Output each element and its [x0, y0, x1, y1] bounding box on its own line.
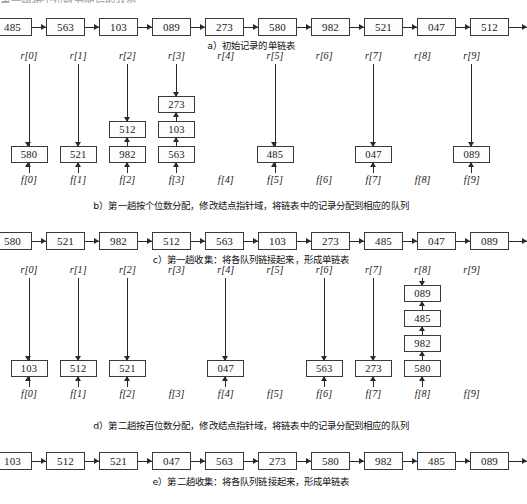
queue-stack: 512	[55, 278, 101, 387]
queue-front-pointer-line	[373, 377, 374, 387]
queue-node: 089	[404, 285, 441, 302]
chain-tail-arrow	[509, 461, 527, 462]
queue-node: 485	[404, 310, 441, 327]
queue-stack: 047	[203, 278, 249, 387]
queue-front-label: f[9]	[449, 174, 495, 186]
queue-stack: 273	[350, 278, 396, 387]
queue-front-label: f[2]	[104, 388, 150, 400]
queue-rear-pointer-line	[373, 64, 374, 146]
chain-node: 089	[470, 452, 509, 470]
queue-front-pointer-line	[275, 163, 276, 173]
queue-rear-pointer-line	[78, 278, 79, 360]
chain-link-arrow	[403, 27, 417, 28]
queue-node: 485	[257, 146, 294, 163]
bucket-column: r[2]521f[2]	[104, 264, 150, 276]
queue-front-label: f[1]	[55, 174, 101, 186]
queue-link-line	[422, 327, 423, 335]
queue-front-label: f[2]	[104, 174, 150, 186]
queue-front-pointer-line	[324, 377, 325, 387]
queue-rear-label: r[5]	[252, 50, 298, 62]
chain-link-arrow	[32, 27, 46, 28]
chain-node: 047	[417, 18, 456, 36]
queue-front-label: f[4]	[203, 388, 249, 400]
chain-link-arrow	[456, 461, 470, 462]
bucket-column: r[9]089f[9]	[449, 50, 495, 62]
queue-node: 273	[158, 96, 195, 113]
chain-link-arrow	[85, 241, 99, 242]
queue-node: 047	[355, 146, 392, 163]
bucket-column: r[2]512982f[2]	[104, 50, 150, 62]
chain-node: 580	[0, 232, 32, 250]
chain-node: 485	[0, 18, 32, 36]
chain-node: 047	[152, 452, 191, 470]
chain-row-c: 580521982512563103273485047089	[0, 228, 502, 254]
queue-rear-label: r[2]	[104, 50, 150, 62]
chain-node: 103	[0, 452, 32, 470]
chain-link-arrow	[244, 461, 258, 462]
chain-node: 273	[311, 232, 350, 250]
queue-rear-label: r[7]	[350, 50, 396, 62]
chain-link-arrow	[403, 241, 417, 242]
queue-front-pointer-line	[78, 163, 79, 173]
queue-node: 982	[404, 335, 441, 352]
queue-node: 103	[158, 121, 195, 138]
queue-stack: 103	[6, 278, 52, 387]
chain-link-arrow	[32, 241, 46, 242]
chain-link-arrow	[403, 461, 417, 462]
queue-rear-pointer-line	[373, 278, 374, 360]
chain-link-arrow	[85, 461, 99, 462]
queue-node: 982	[109, 146, 146, 163]
queue-front-pointer-line	[373, 163, 374, 173]
bucket-column: r[5]f[5]	[252, 264, 298, 276]
queue-stack: 521	[104, 278, 150, 387]
queue-front-label: f[3]	[154, 388, 200, 400]
bucket-column: r[3]f[3]	[154, 264, 200, 276]
queue-rear-label: r[6]	[301, 264, 347, 276]
queue-rear-label: r[8]	[400, 264, 446, 276]
queue-stack: 047	[350, 64, 396, 173]
chain-node: 580	[311, 452, 350, 470]
queue-stack: 521	[55, 64, 101, 173]
queue-front-label: f[7]	[350, 388, 396, 400]
queue-rear-pointer-line	[324, 278, 325, 360]
chain-node: 982	[99, 232, 138, 250]
bucket-column: r[1]521f[1]	[55, 50, 101, 62]
queue-front-label: f[1]	[55, 388, 101, 400]
chain-node: 047	[417, 232, 456, 250]
queue-front-pointer-line	[29, 377, 30, 387]
queue-rear-pointer-line	[78, 64, 79, 146]
bucket-column: r[5]485f[5]	[252, 50, 298, 62]
chain-row-e: 103512521047563273580982485089	[0, 448, 502, 474]
chain-node: 103	[258, 232, 297, 250]
chain-link-arrow	[138, 241, 152, 242]
queue-front-label: f[5]	[252, 388, 298, 400]
queue-front-pointer-line	[29, 163, 30, 173]
chain-link-arrow	[456, 27, 470, 28]
bucket-section-d: r[0]103f[0]r[1]512f[1]r[2]521f[2]r[3]f[3…	[0, 264, 502, 404]
queue-front-pointer-line	[471, 163, 472, 173]
queue-stack: 485	[252, 64, 298, 173]
queue-rear-pointer-line	[422, 278, 423, 285]
queue-rear-label: r[9]	[449, 50, 495, 62]
chain-link-arrow	[297, 27, 311, 28]
chain-node: 485	[417, 452, 456, 470]
queue-front-label: f[9]	[449, 388, 495, 400]
bucket-column: r[9]f[9]	[449, 264, 495, 276]
chain-link-arrow	[244, 241, 258, 242]
queue-front-label: f[8]	[400, 388, 446, 400]
queue-front-pointer-line	[78, 377, 79, 387]
chain-node: 103	[99, 18, 138, 36]
chain-node: 521	[99, 452, 138, 470]
queue-node: 580	[11, 146, 48, 163]
queue-stack: 512982	[104, 64, 150, 173]
queue-front-label: f[7]	[350, 174, 396, 186]
queue-rear-pointer-line	[29, 64, 30, 146]
caption-e: e）第二趟收集：将各队列链接起来，形成单链表	[0, 474, 502, 488]
queue-front-label: f[6]	[301, 388, 347, 400]
bucket-column: r[6]f[6]	[301, 50, 347, 62]
queue-node: 273	[355, 360, 392, 377]
bucket-column: r[8]f[8]	[400, 50, 446, 62]
queue-rear-label: r[4]	[203, 50, 249, 62]
chain-link-arrow	[191, 27, 205, 28]
bucket-section-b: r[0]580f[0]r[1]521f[1]r[2]512982f[2]r[3]…	[0, 50, 502, 190]
